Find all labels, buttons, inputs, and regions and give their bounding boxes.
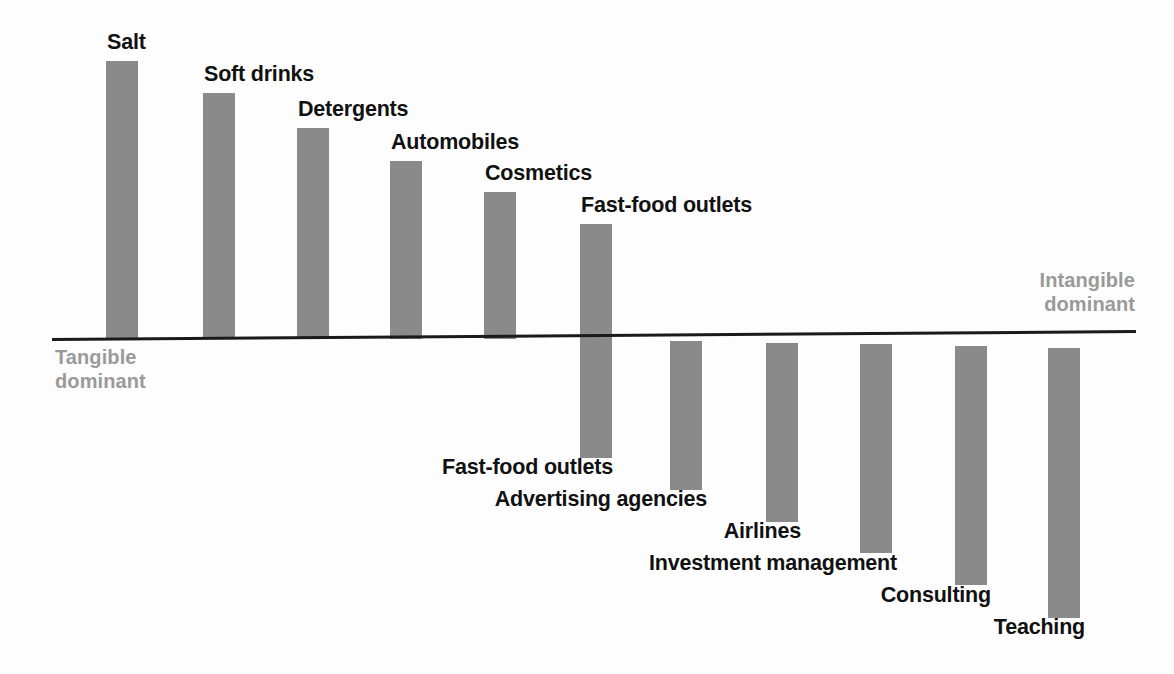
tangible-dominant-line-1: Tangible (55, 345, 146, 369)
tangible-dominant-label: Tangible dominant (55, 345, 146, 394)
bar (766, 343, 798, 522)
bar (955, 346, 987, 585)
bar-label: Cosmetics (485, 162, 592, 185)
intangible-dominant-label: Intangible dominant (1040, 268, 1135, 317)
bar-label: Soft drinks (204, 63, 314, 86)
bar-label: Detergents (298, 98, 408, 121)
bar-label: Automobiles (391, 131, 519, 154)
intangible-dominant-line-2: dominant (1040, 292, 1135, 316)
bar (670, 341, 702, 490)
tangibility-spectrum-chart: SaltSoft drinksDetergentsAutomobilesCosm… (0, 0, 1174, 674)
bar (1048, 348, 1080, 618)
bar (106, 61, 138, 339)
bar-label: Airlines (0, 520, 801, 543)
bar-label: Investment management (0, 552, 897, 575)
bar-label: Consulting (0, 584, 991, 607)
bar (580, 339, 612, 458)
tangible-dominant-line-2: dominant (55, 369, 146, 393)
bar-label: Fast-food outlets (581, 194, 752, 217)
intangible-dominant-line-1: Intangible (1040, 268, 1135, 292)
bar-label: Advertising agencies (0, 488, 707, 511)
bar-label: Fast-food outlets (0, 456, 613, 479)
bar (580, 224, 612, 339)
bar (297, 128, 329, 339)
bar (860, 344, 892, 553)
bar (390, 161, 422, 339)
bar (484, 192, 516, 339)
bar-label: Teaching (0, 616, 1085, 639)
bar (203, 93, 235, 339)
bar-label: Salt (107, 31, 146, 54)
